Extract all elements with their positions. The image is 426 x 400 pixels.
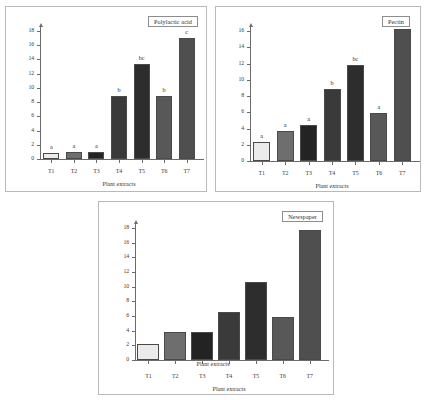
bar-t7 (394, 29, 411, 161)
y-axis-tick (37, 59, 40, 60)
bar-t2 (66, 152, 82, 159)
bar-t2 (164, 332, 186, 360)
bar-t1 (253, 142, 270, 161)
y-axis-tick-label: 6 (109, 313, 129, 319)
x-axis-title: Plant extracts (74, 181, 164, 187)
y-axis-tick (37, 102, 40, 103)
y-axis-tick (132, 228, 135, 229)
y-axis-tick (247, 64, 250, 65)
y-axis-arrow-icon (134, 220, 138, 224)
bar-t4 (324, 89, 341, 161)
y-axis-tick (132, 345, 135, 346)
y-axis-tick-label: 2 (14, 142, 34, 148)
chart-panel-polylactic-acid: 024681012141618T1aT2aT3aT4bT5bcT6bT7cPla… (5, 6, 207, 192)
x-axis-tick (309, 162, 310, 165)
y-axis-tick-label: 12 (14, 71, 34, 77)
x-axis-tick-label-t7: T7 (173, 169, 201, 175)
y-axis-tick (132, 360, 135, 361)
y-axis-tick-label: 0 (109, 357, 129, 363)
y-axis-line (250, 27, 251, 161)
y-axis-tick (247, 129, 250, 130)
y-axis-tick-label: 4 (14, 128, 34, 134)
y-axis-tick (132, 301, 135, 302)
x-axis-tick (262, 162, 263, 165)
bar-t7 (299, 230, 321, 360)
x-axis-tick (285, 162, 286, 165)
bar-t5 (347, 65, 364, 161)
x-axis-line (250, 161, 420, 162)
y-axis-tick-label: 0 (14, 156, 34, 162)
y-axis-tick (247, 145, 250, 146)
x-axis-tick (310, 361, 311, 364)
bar-t3 (88, 152, 104, 159)
x-axis-tick (332, 162, 333, 165)
chart-panel-pectin: 0246810121416T1aT2aT3aT4bT5bcT6aT7cPlant… (215, 6, 421, 192)
y-axis-arrow-icon (39, 23, 43, 27)
y-axis-tick-label: 10 (224, 77, 244, 83)
bar-t7 (179, 38, 195, 159)
y-axis-tick-label: 14 (14, 57, 34, 63)
x-axis-tick-label-t4: T4 (215, 374, 243, 380)
y-axis-tick (37, 31, 40, 32)
x-axis-tick-label-t2: T2 (161, 374, 189, 380)
chart-title-polylactic-acid: Polylactic acid (148, 16, 198, 27)
bar-t6 (272, 317, 294, 360)
significance-label-t7: c (173, 29, 201, 35)
plot-area-newspaper: 024681012141618T1T2T3T4T5T6T7Plant extra… (99, 202, 333, 394)
significance-label-t3: a (82, 143, 110, 149)
bar-t1 (43, 153, 59, 159)
x-axis-title: Plant extracts (287, 183, 377, 189)
y-axis-tick-label: 2 (109, 342, 129, 348)
figure-canvas: 024681012141618T1aT2aT3aT4bT5bcT6bT7cPla… (0, 0, 426, 400)
chart-title-pectin: Pectin (382, 16, 410, 27)
significance-label-t4: b (105, 87, 133, 93)
y-axis-tick (132, 272, 135, 273)
x-axis-title: Plant extracts (184, 386, 274, 392)
significance-label-t5: bc (341, 56, 369, 62)
x-axis-tick (402, 162, 403, 165)
x-axis-tick-label-t7: T7 (388, 171, 416, 177)
bar-t2 (277, 131, 294, 161)
x-axis-tick (175, 361, 176, 364)
x-axis-tick (187, 160, 188, 163)
bar-t3 (191, 332, 213, 360)
significance-label-t6: b (150, 87, 178, 93)
x-axis-title-overlap: Plant extracts (183, 361, 243, 367)
bar-t4 (111, 96, 127, 159)
plot-area-polylactic-acid: 024681012141618T1aT2aT3aT4bT5bcT6bT7cPla… (6, 7, 206, 191)
x-axis-tick (119, 160, 120, 163)
x-axis-tick (355, 162, 356, 165)
y-axis-tick-label: 14 (224, 44, 244, 50)
y-axis-tick (247, 161, 250, 162)
significance-label-t4: b (318, 80, 346, 86)
chart-title-newspaper: Newspaper (282, 211, 323, 222)
y-axis-tick-label: 14 (109, 254, 129, 260)
significance-label-t1: a (248, 133, 276, 139)
y-axis-tick (132, 287, 135, 288)
x-axis-tick-label-t1: T1 (134, 374, 162, 380)
y-axis-tick (132, 331, 135, 332)
bar-t4 (218, 312, 240, 360)
y-axis-tick (247, 80, 250, 81)
y-axis-tick-label: 8 (14, 99, 34, 105)
y-axis-tick-label: 8 (109, 298, 129, 304)
significance-label-t5: bc (128, 55, 156, 61)
y-axis-line (40, 27, 41, 159)
y-axis-tick (247, 31, 250, 32)
x-axis-tick (164, 160, 165, 163)
bar-t5 (245, 282, 267, 360)
y-axis-tick-label: 8 (224, 93, 244, 99)
plot-area-pectin: 0246810121416T1aT2aT3aT4bT5bcT6aT7cPlant… (216, 7, 420, 191)
y-axis-tick-label: 4 (224, 126, 244, 132)
y-axis-tick (247, 112, 250, 113)
y-axis-tick-label: 12 (109, 269, 129, 275)
y-axis-tick (132, 243, 135, 244)
y-axis-tick-label: 10 (109, 284, 129, 290)
y-axis-tick-label: 6 (14, 113, 34, 119)
significance-label-t2: a (271, 122, 299, 128)
y-axis-tick-label: 16 (109, 240, 129, 246)
y-axis-tick (37, 88, 40, 89)
x-axis-tick (74, 160, 75, 163)
x-axis-tick (96, 160, 97, 163)
y-axis-tick-label: 6 (224, 109, 244, 115)
